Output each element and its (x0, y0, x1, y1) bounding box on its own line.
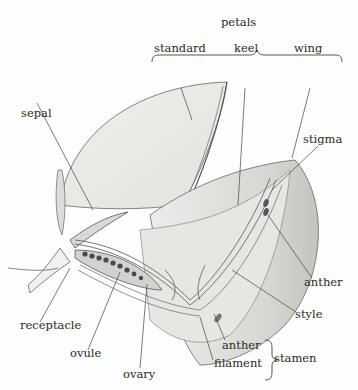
label-anther-upper: anther (304, 277, 343, 289)
label-receptacle: receptacle (20, 320, 81, 332)
sepal (70, 212, 128, 248)
label-ovule: ovule (70, 348, 101, 360)
label-stigma: stigma (303, 134, 342, 146)
flower-diagram: petals standard keel wing sepal stigma a… (0, 0, 358, 390)
label-keel: keel (234, 43, 258, 55)
label-filament: filament (214, 358, 262, 370)
label-sepal: sepal (21, 108, 52, 120)
label-standard: standard (154, 43, 206, 55)
label-wing: wing (294, 43, 322, 55)
label-stamen: stamen (274, 353, 317, 365)
receptacle (28, 248, 70, 293)
label-ovary: ovary (123, 369, 155, 381)
label-petals: petals (221, 17, 256, 29)
label-style: style (295, 309, 323, 321)
label-anther-lower: anther (222, 340, 261, 352)
